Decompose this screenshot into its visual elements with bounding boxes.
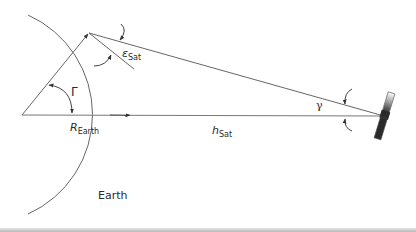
elevation-angle-label: εSat [122, 48, 141, 59]
r-subscript: Earth [78, 127, 99, 136]
radius-to-surface-line [22, 34, 88, 115]
gamma-symbol: γ [316, 99, 323, 112]
r-symbol: R [70, 121, 78, 134]
nadir-angle-label: γ [316, 100, 323, 111]
h-subscript: Sat [219, 130, 232, 139]
line-of-sight [89, 33, 384, 116]
satellite-altitude-label: hSat [212, 125, 232, 136]
bottom-divider [0, 228, 416, 232]
center-to-satellite-line [22, 115, 384, 116]
h-symbol: h [212, 124, 219, 137]
earth-label: Earth [98, 190, 128, 201]
elevation-angle-arrow-upper [120, 24, 124, 40]
earth-surface-arc [28, 15, 92, 214]
nadir-angle-arrow-upper [345, 89, 352, 104]
nadir-angle-arrow-lower [345, 119, 352, 131]
central-angle-arrow [49, 85, 72, 113]
diagram-canvas [0, 0, 416, 232]
elevation-angle-arrow-lower [94, 55, 111, 66]
gamma-capital-symbol: Γ [71, 85, 78, 99]
earth-radius-label: REarth [70, 122, 99, 133]
central-angle-label: Γ [71, 86, 78, 98]
epsilon-subscript: Sat [128, 53, 141, 62]
